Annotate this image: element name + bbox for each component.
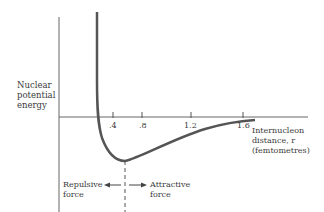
tick-label: .4 xyxy=(109,121,117,131)
arrow-left-icon xyxy=(104,183,110,188)
arrow-right-icon xyxy=(141,183,147,188)
potential-curve xyxy=(97,12,255,161)
x-axis-label: Internucleon distance, r (femtometres) xyxy=(252,126,310,156)
y-axis-label: Nuclear potential energy xyxy=(17,80,55,110)
tick-label: 1.6 xyxy=(237,121,250,131)
tick-label: 1.2 xyxy=(184,121,197,131)
tick-label: .8 xyxy=(139,121,147,131)
attractive-force-label: Attractive force xyxy=(150,180,190,200)
repulsive-force-label: Repulsive force xyxy=(63,180,103,200)
